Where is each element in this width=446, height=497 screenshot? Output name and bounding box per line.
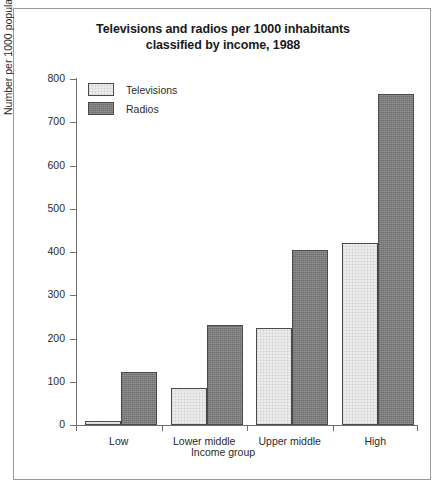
y-tick-label-0: 0 bbox=[59, 418, 65, 430]
y-tick-400: 400 bbox=[70, 252, 76, 253]
chart-title: Televisions and radios per 1000 inhabita… bbox=[14, 21, 432, 53]
legend-swatch-radios-icon bbox=[88, 102, 114, 115]
y-tick-label-400: 400 bbox=[47, 245, 65, 257]
x-tick-4 bbox=[417, 425, 418, 431]
y-tick-800: 800 bbox=[70, 79, 76, 80]
y-tick-label-200: 200 bbox=[47, 332, 65, 344]
y-tick-700: 700 bbox=[70, 122, 76, 123]
chart-legend: Televisions Radios bbox=[88, 81, 177, 119]
legend-item-televisions: Televisions bbox=[88, 81, 177, 98]
y-tick-label-500: 500 bbox=[47, 202, 65, 214]
y-tick-100: 100 bbox=[70, 382, 76, 383]
bar-televisions-upper-middle bbox=[256, 328, 292, 425]
x-tick-3 bbox=[333, 425, 334, 431]
x-axis-title: Income group bbox=[14, 446, 432, 458]
y-tick-label-600: 600 bbox=[47, 159, 65, 171]
chart-title-line-1: Televisions and radios per 1000 inhabita… bbox=[96, 22, 350, 36]
y-tick-label-100: 100 bbox=[47, 375, 65, 387]
bar-radios-high bbox=[378, 94, 414, 425]
y-tick-300: 300 bbox=[70, 295, 76, 296]
bar-radios-upper-middle bbox=[292, 250, 328, 425]
chart-figure-frame: Televisions and radios per 1000 inhabita… bbox=[13, 8, 431, 480]
y-tick-label-800: 800 bbox=[47, 72, 65, 84]
bar-televisions-lower-middle bbox=[171, 388, 207, 425]
legend-swatch-televisions-icon bbox=[88, 83, 114, 96]
x-tick-1 bbox=[162, 425, 163, 431]
x-tick-2 bbox=[247, 425, 248, 431]
chart-title-line-2: classified by income, 1988 bbox=[14, 37, 432, 53]
legend-item-radios: Radios bbox=[88, 100, 177, 117]
y-tick-600: 600 bbox=[70, 166, 76, 167]
bar-televisions-low bbox=[85, 421, 121, 425]
y-tick-label-300: 300 bbox=[47, 288, 65, 300]
y-tick-200: 200 bbox=[70, 339, 76, 340]
plot-area: 0 100 200 300 400 500 600 700 800 bbox=[76, 79, 418, 425]
legend-label-televisions: Televisions bbox=[126, 84, 177, 96]
y-axis-title: Number per 1000 population bbox=[2, 0, 14, 115]
x-tick-0 bbox=[76, 425, 77, 431]
legend-label-radios: Radios bbox=[126, 103, 159, 115]
y-tick-label-700: 700 bbox=[47, 115, 65, 127]
bar-radios-lower-middle bbox=[207, 325, 243, 425]
bar-televisions-high bbox=[342, 243, 378, 425]
bar-radios-low bbox=[121, 372, 157, 425]
y-tick-500: 500 bbox=[70, 209, 76, 210]
